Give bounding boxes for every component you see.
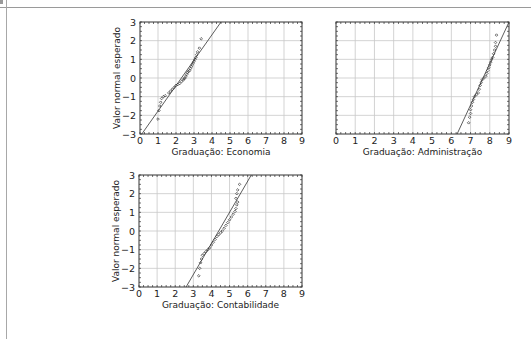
data-points [467, 34, 497, 124]
data-point [236, 189, 239, 192]
y-tick-label: −1 [121, 244, 135, 255]
data-point [236, 204, 239, 207]
data-point [198, 47, 201, 50]
data-point [230, 216, 233, 219]
x-tick-label: 6 [245, 288, 251, 299]
y-tick-label: 0 [129, 226, 135, 237]
x-tick-label: 7 [263, 135, 269, 146]
x-tick-label: 6 [448, 135, 454, 146]
x-tick-label: 4 [209, 135, 215, 146]
y-tick-label: −1 [122, 91, 136, 102]
y-tick-label: 0 [130, 73, 136, 84]
x-tick-label: 5 [227, 288, 233, 299]
x-tick-label: 9 [299, 135, 305, 146]
normal-probability-plots: 0123456789−3−2−10123Graduação: EconomiaV… [0, 0, 531, 339]
y-tick-label: −3 [121, 282, 135, 293]
y-axis-label: Valor normal esperado [112, 27, 122, 129]
x-tick-label: 1 [154, 288, 160, 299]
y-tick-label: 3 [129, 170, 135, 181]
data-point [494, 45, 497, 48]
x-tick-label: 9 [506, 135, 512, 146]
x-tick-label: 3 [191, 135, 197, 146]
data-point [200, 258, 203, 261]
x-tick-label: 7 [468, 135, 474, 146]
y-tick-label: 1 [129, 207, 135, 218]
x-axis-label: Graduação: Contabilidade [162, 300, 280, 310]
data-point [236, 201, 239, 204]
data-point [235, 207, 238, 210]
y-tick-label: 2 [130, 35, 136, 46]
data-point [160, 97, 163, 100]
x-tick-label: 5 [227, 135, 233, 146]
data-point [232, 213, 235, 216]
panel-economia: 0123456789−3−2−10123Graduação: EconomiaV… [112, 17, 305, 158]
x-tick-label: 8 [281, 135, 287, 146]
x-tick-label: 6 [245, 135, 251, 146]
data-point [201, 254, 204, 257]
data-point [495, 34, 498, 37]
data-point [226, 221, 229, 224]
data-point [485, 75, 488, 78]
x-tick-label: 4 [208, 288, 214, 299]
panel-administracao: 0123456789Graduação: Administração [333, 22, 512, 157]
data-point [467, 122, 470, 125]
x-tick-label: 2 [172, 288, 178, 299]
grid [139, 175, 302, 287]
x-tick-label: 3 [190, 288, 196, 299]
x-tick-label: 1 [155, 135, 161, 146]
x-tick-label: 1 [352, 135, 358, 146]
x-tick-label: 2 [173, 135, 179, 146]
x-tick-label: 0 [136, 288, 142, 299]
y-tick-label: −2 [121, 263, 135, 274]
x-tick-label: 0 [137, 135, 143, 146]
x-tick-label: 8 [487, 135, 493, 146]
data-point [477, 92, 480, 95]
data-point [223, 227, 226, 230]
x-axis-label: Graduação: Economia [171, 147, 270, 157]
data-point [159, 101, 162, 104]
y-axis-label: Valor normal esperado [111, 180, 121, 282]
panel-contabilidade: 0123456789−3−2−10123Graduação: Contabili… [111, 170, 305, 311]
x-tick-label: 9 [299, 288, 305, 299]
y-tick-label: 3 [130, 17, 136, 28]
data-point [238, 183, 241, 186]
x-tick-label: 3 [391, 135, 397, 146]
x-tick-label: 5 [429, 135, 435, 146]
y-tick-label: −3 [122, 129, 136, 140]
y-tick-label: 1 [130, 54, 136, 65]
data-points [157, 38, 203, 121]
data-point [196, 51, 199, 54]
x-tick-label: 0 [333, 135, 339, 146]
data-point [225, 224, 228, 227]
grid [140, 22, 302, 134]
data-point [180, 80, 183, 83]
x-axis-label: Graduação: Administração [363, 147, 483, 157]
y-tick-label: −2 [122, 110, 136, 121]
x-tick-label: 7 [263, 288, 269, 299]
data-point [197, 275, 200, 278]
x-tick-label: 4 [410, 135, 416, 146]
data-point [219, 232, 222, 235]
y-tick-label: 2 [129, 188, 135, 199]
data-point [200, 38, 203, 41]
x-tick-label: 8 [281, 288, 287, 299]
data-point [217, 233, 220, 236]
x-tick-label: 2 [371, 135, 377, 146]
data-point [494, 41, 497, 44]
